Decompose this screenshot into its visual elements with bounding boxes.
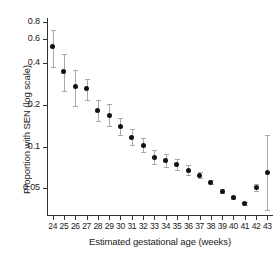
data-point [265,170,270,175]
error-bar-cap [152,150,157,151]
y-tick-label: 0.05 [23,182,40,192]
y-axis-line [47,18,48,216]
chart-figure: Proportion with SEN (log scale) Estimate… [0,0,278,259]
x-tick-mark [53,216,54,220]
error-bar-cap [85,100,90,101]
x-tick-mark [211,216,212,220]
error-bar-cap [96,100,101,101]
y-tick-label: 0.1 [28,141,40,151]
data-point [141,143,146,148]
data-point [242,201,247,206]
error-bar-cap [62,91,67,92]
error-bar-cap [152,164,157,165]
error-bar-cap [62,54,67,55]
error-bar-cap [107,104,112,105]
x-tick-mark [64,216,65,220]
x-tick-mark [154,216,155,220]
error-bar-cap [118,118,123,119]
data-point [118,124,123,129]
x-tick-mark [267,216,268,220]
error-bar-cap [141,138,146,139]
error-bar-cap [186,175,191,176]
x-tick-mark [109,216,110,220]
error-bar-cap [107,126,112,127]
data-point [231,195,236,200]
error-bar-cap [164,154,169,155]
error-bar-cap [96,121,101,122]
error-bar-cap [130,145,135,146]
y-tick-mark [43,147,47,148]
data-point [107,113,112,118]
x-axis-line [47,215,273,216]
error-bar-cap [175,159,180,160]
y-tick-label: 0.4 [28,57,40,67]
data-point [254,185,259,190]
error-bar-cap [141,152,146,153]
error-bar-cap [118,135,123,136]
x-tick-mark [177,216,178,220]
x-tick-mark [98,216,99,220]
data-point [152,155,157,160]
data-point [174,162,179,167]
data-point [129,135,134,140]
y-tick-mark [43,63,47,64]
error-bar-cap [85,79,90,80]
x-tick-mark [245,216,246,220]
data-point [95,108,100,113]
data-point [61,69,66,74]
x-tick-mark [143,216,144,220]
y-tick-mark [43,22,47,23]
x-tick-mark [256,216,257,220]
error-bar-cap [51,67,56,68]
error-bar-cap [51,30,56,31]
error-bar-cap [198,178,203,179]
x-tick-mark [87,216,88,220]
x-tick-mark [166,216,167,220]
error-bar-cap [254,191,259,192]
y-tick-label: 0.8 [28,16,40,26]
data-point [186,168,191,173]
data-point [73,84,78,89]
y-tick-label: 0.2 [28,99,40,109]
y-tick-label: 0.6 [28,33,40,43]
error-bar-cap [130,129,135,130]
x-tick-mark [222,216,223,220]
y-tick-mark [43,39,47,40]
error-bar-cap [265,135,270,136]
x-tick-label: 43 [258,221,276,231]
y-tick-mark [43,105,47,106]
x-tick-mark [233,216,234,220]
x-tick-mark [188,216,189,220]
data-point [50,44,55,49]
data-point [84,86,89,91]
error-bar-cap [73,70,78,71]
x-tick-mark [200,216,201,220]
data-point [163,158,168,163]
x-tick-mark [120,216,121,220]
error-bar-cap [186,165,191,166]
error-bar-cap [265,210,270,211]
y-tick-mark [43,188,47,189]
error-bar-cap [164,167,169,168]
x-axis-title: Estimated gestational age (weeks) [47,236,273,247]
error-bar-cap [73,106,78,107]
x-tick-mark [75,216,76,220]
error-bar-cap [175,170,180,171]
x-tick-mark [132,216,133,220]
data-point [197,173,202,178]
